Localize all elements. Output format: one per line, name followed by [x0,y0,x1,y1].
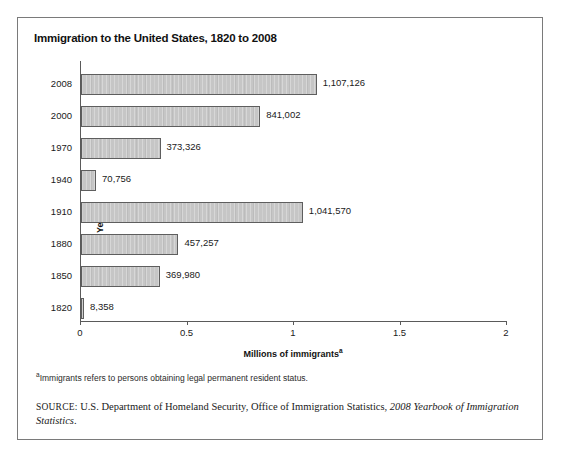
x-tick-label: 1.5 [393,327,406,338]
y-tick-label: 1970 [51,142,72,153]
footnote-text: Immigrants refers to persons obtaining l… [40,373,308,383]
x-axis-title-superscript: a [339,347,343,354]
bar-row: 18208,358 [80,298,506,319]
bar-row: 1970373,326 [80,138,506,159]
bar-value-label: 841,002 [266,109,300,120]
bar-row: 1880457,257 [80,234,506,255]
source-note: SOURCE: U.S. Department of Homeland Secu… [36,400,532,428]
bar-value-label: 8,358 [90,301,114,312]
source-end: . [74,415,77,426]
y-tick-label-holder: 1850 [34,266,72,287]
x-axis-title-text: Millions of immigrants [243,349,339,359]
x-tick-label: 1 [290,327,295,338]
source-text: U.S. Department of Homeland Security, Of… [78,401,390,412]
y-tick-label: 1850 [51,270,72,281]
y-tick-label-holder: 2008 [34,74,72,95]
x-tick-label: 0.5 [180,327,193,338]
bar [81,298,84,319]
bar [81,170,96,191]
bar [81,106,260,127]
chart-title: Immigration to the United States, 1820 t… [34,32,277,44]
bar-value-label: 70,756 [102,173,131,184]
y-tick-label-holder: 1940 [34,170,72,191]
x-axis-title: Millions of immigrantsa [80,347,506,359]
x-axis-tick [400,321,401,325]
bar-row: 19101,041,570 [80,202,506,223]
source-label: SOURCE: [36,402,78,412]
y-tick-label: 1940 [51,174,72,185]
bar [81,202,303,223]
y-tick-label: 1910 [51,206,72,217]
x-axis-tick [187,321,188,325]
y-tick-label: 2008 [51,78,72,89]
bar-value-label: 457,257 [184,237,218,248]
y-tick-label-holder: 1970 [34,138,72,159]
bar [81,234,178,255]
x-axis-tick [293,321,294,325]
y-tick-label-holder: 1820 [34,298,72,319]
bar-value-label: 1,041,570 [309,205,351,216]
y-tick-label-holder: 2000 [34,106,72,127]
bar-value-label: 369,980 [166,269,200,280]
bar [81,138,161,159]
y-tick-label-holder: 1910 [34,202,72,223]
x-axis-tick [80,321,81,325]
bar-value-label: 373,326 [167,141,201,152]
x-tick-label: 0 [77,327,82,338]
bar-row: 2000841,002 [80,106,506,127]
y-tick-label: 1880 [51,238,72,249]
bar-row: 20081,107,126 [80,74,506,95]
bar [81,266,160,287]
bar-row: 194070,756 [80,170,506,191]
bar [81,74,317,95]
bar-value-label: 1,107,126 [323,77,365,88]
figure-frame: Immigration to the United States, 1820 t… [17,17,543,440]
x-axis-tick [506,321,507,325]
y-tick-label: 2000 [51,110,72,121]
y-tick-label: 1820 [51,302,72,313]
y-tick-label-holder: 1880 [34,234,72,255]
x-tick-label: 2 [503,327,508,338]
footnote: aImmigrants refers to persons obtaining … [36,371,516,384]
plot-area: Year 20081,107,1262000841,0021970373,326… [80,61,506,329]
bar-row: 1850369,980 [80,266,506,287]
